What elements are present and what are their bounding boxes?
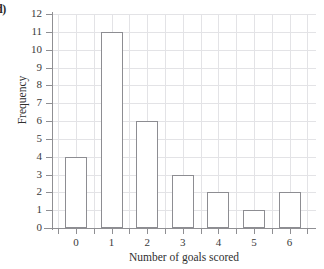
y-axis-tick [46,50,52,51]
gridline-horizontal [52,50,316,51]
x-axis-tick-label: 1 [92,236,132,248]
gridline-vertical [307,14,308,228]
x-axis-tick [272,228,273,234]
x-axis-tick [129,228,130,234]
gridline-vertical [236,14,237,228]
x-axis-tick-label: 5 [234,236,274,248]
gridline-horizontal [52,139,316,140]
gridline-horizontal [52,32,316,33]
y-axis-tick [46,157,52,158]
y-axis-tick-label: 12 [4,8,42,19]
bar [172,175,194,229]
bar [101,32,123,228]
y-axis-tick [46,210,52,211]
gridline-horizontal [52,121,316,122]
gridline-horizontal [52,103,316,104]
x-axis-line [44,228,316,229]
bar [65,157,87,228]
x-axis-title: Number of goals scored [52,251,316,263]
y-axis-tick-label: 11 [4,26,42,37]
gridline-horizontal [52,14,316,15]
frequency-bar-chart: 0123456789101112 0123456 Number of goals… [0,0,324,269]
gridline-vertical [254,14,255,228]
x-axis-tick [307,228,308,234]
y-axis-tick-label: 3 [4,169,42,180]
x-axis-tick [254,228,255,234]
gridline-vertical [94,14,95,228]
y-axis-tick [46,32,52,33]
x-axis-tick-label: 2 [127,236,167,248]
plot-area [52,14,316,228]
x-axis-tick [165,228,166,234]
gridline-vertical [129,14,130,228]
bar [243,210,265,228]
y-axis-line [52,12,53,230]
x-axis-tick [236,228,237,234]
x-axis-tick [218,228,219,234]
y-axis-tick-label: 0 [4,222,42,233]
gridline-horizontal [52,68,316,69]
gridline-vertical [165,14,166,228]
x-axis-tick-label: 3 [163,236,203,248]
y-axis-tick [46,175,52,176]
y-axis-tick-label: 2 [4,186,42,197]
x-axis-tick [183,228,184,234]
bar [136,121,158,228]
gridline-horizontal [52,85,316,86]
y-axis-tick-label: 1 [4,204,42,215]
bar [279,192,301,228]
y-axis-title: Frequency [16,40,28,160]
gridline-vertical [58,14,59,228]
y-axis-tick [46,85,52,86]
y-axis-tick [46,139,52,140]
x-axis-tick [58,228,59,234]
gridline-vertical [201,14,202,228]
x-axis-tick [94,228,95,234]
y-axis-tick [46,14,52,15]
x-axis-tick [76,228,77,234]
y-axis-tick [46,68,52,69]
x-axis-tick-label: 6 [270,236,310,248]
x-axis-tick [147,228,148,234]
bar [207,192,229,228]
gridline-horizontal [52,157,316,158]
x-axis-tick [290,228,291,234]
gridline-vertical [272,14,273,228]
x-axis-tick [201,228,202,234]
y-axis-tick [46,192,52,193]
x-axis-tick-label: 4 [198,236,238,248]
x-axis-tick [112,228,113,234]
y-axis-tick [46,228,52,229]
y-axis-tick [46,103,52,104]
x-axis-tick-label: 0 [56,236,96,248]
y-axis-tick [46,121,52,122]
